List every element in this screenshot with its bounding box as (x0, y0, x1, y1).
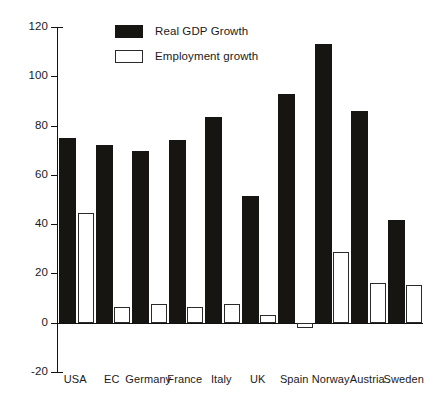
bar-italy-real-gdp-growth (205, 117, 222, 323)
bar-norway-employment-growth (333, 252, 349, 322)
bar-germany-employment-growth (151, 304, 167, 322)
bar-spain-employment-growth (297, 323, 313, 328)
bar-usa-employment-growth (78, 213, 94, 323)
bar-ec-real-gdp-growth (96, 145, 113, 322)
legend-item-employment-growth: Employment growth (115, 47, 325, 65)
bar-chart-figure: 120100806040200-20 USAECGermanyFranceIta… (0, 0, 440, 415)
y-axis-tick-label: 80 (2, 120, 48, 132)
bar-austria-employment-growth (370, 283, 386, 322)
bar-usa-real-gdp-growth (59, 138, 76, 323)
bar-uk-employment-growth (260, 315, 276, 322)
x-axis-label-sweden: Sweden (378, 373, 431, 385)
bar-sweden-employment-growth (406, 285, 422, 323)
y-axis-tick-label: 40 (2, 218, 48, 230)
bar-france-employment-growth (187, 307, 203, 323)
bar-germany-real-gdp-growth (132, 151, 149, 322)
legend-swatch-icon-employment (115, 50, 143, 63)
y-axis-tick-label: 0 (2, 317, 48, 329)
y-axis-tick-label: 20 (2, 267, 48, 279)
bar-uk-real-gdp-growth (242, 196, 259, 323)
plot-area: USAECGermanyFranceItalyUKSpainNorwayAust… (57, 27, 422, 372)
legend-swatch-icon-gdp (115, 25, 143, 38)
y-axis-tick-label: 120 (2, 21, 48, 33)
bar-france-real-gdp-growth (169, 140, 186, 322)
y-axis-tick-label: 100 (2, 70, 48, 82)
chart-legend: Real GDP Growth Employment growth (115, 22, 325, 72)
legend-label-employment: Employment growth (155, 50, 258, 63)
legend-label-gdp: Real GDP Growth (155, 25, 248, 38)
bar-spain-real-gdp-growth (278, 94, 295, 323)
bar-austria-real-gdp-growth (351, 111, 368, 323)
bar-italy-employment-growth (224, 304, 240, 322)
bar-norway-real-gdp-growth (315, 44, 332, 322)
bar-sweden-real-gdp-growth (388, 220, 405, 322)
y-axis-tick-label: 60 (2, 169, 48, 181)
bar-ec-employment-growth (114, 307, 130, 323)
y-axis-tick-label: -20 (2, 366, 48, 378)
legend-item-real-gdp-growth: Real GDP Growth (115, 22, 325, 40)
